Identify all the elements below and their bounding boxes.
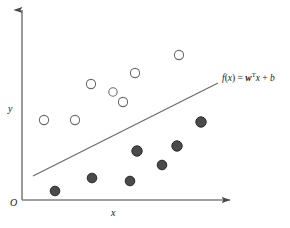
data-point-filled [87,173,97,183]
decision-boundary-line [33,83,218,176]
data-point-open [86,79,95,88]
data-point-filled [132,146,142,156]
data-point-open [174,50,183,59]
equals-sign: = [238,73,243,83]
data-point-open [109,88,117,96]
scatter-plot-figure: O x y f(x) = wTx + b [0,0,290,228]
data-point-open [130,68,139,77]
data-point-filled [50,186,60,196]
plot-canvas [0,0,290,228]
plus-sign: + [262,73,267,83]
open-circle-markers [39,50,183,124]
bias-term: b [270,73,275,83]
data-point-filled [196,117,206,127]
data-point-filled [172,141,182,151]
data-point-filled [157,160,167,170]
data-point-open [39,115,48,124]
data-point-filled [125,176,135,186]
origin-label: O [10,198,17,208]
input-variable: x [256,73,260,83]
boundary-function-label: f(x) = wTx + b [222,73,275,83]
x-axis-label: x [111,208,115,218]
close-paren: ) [232,73,235,83]
boundary-line-group [33,83,218,176]
data-point-open [70,115,79,124]
data-point-open [118,97,127,106]
y-axis-label: y [8,104,12,114]
